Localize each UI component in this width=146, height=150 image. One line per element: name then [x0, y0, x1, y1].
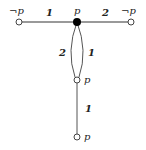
edge-center-middle-right: [77, 22, 83, 77]
node-right-label: ¬p: [121, 5, 136, 16]
node-center: [73, 18, 81, 26]
node-middle-label: p: [84, 74, 91, 85]
edge-weight-center-middle-left: 2: [58, 47, 66, 58]
node-middle: [74, 77, 80, 83]
node-left-label: ¬p: [9, 5, 24, 16]
edge-weight-left-center: 1: [46, 7, 53, 18]
edge-weight-center-right: 2: [101, 7, 109, 18]
node-center-label: p: [74, 5, 81, 16]
node-bottom: [74, 134, 80, 140]
node-left: [16, 19, 22, 25]
graph-diagram: ¬p p ¬p p p 1 2 2 1 1: [0, 0, 146, 150]
edge-weight-middle-bottom: 1: [85, 103, 92, 114]
edge-center-middle-left: [71, 22, 77, 77]
node-right: [128, 19, 134, 25]
edge-weight-center-middle-right: 1: [88, 47, 95, 58]
node-bottom-label: p: [84, 131, 91, 142]
